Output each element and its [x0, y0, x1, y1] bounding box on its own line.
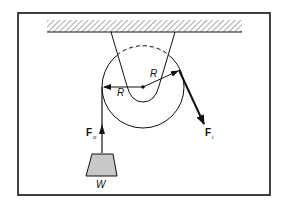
- radius-arrow-right: [143, 71, 178, 87]
- weight-label: W: [96, 179, 107, 190]
- svg-text:F: F: [86, 127, 92, 138]
- force-out-arrowhead: [99, 124, 105, 134]
- ceiling: [47, 20, 242, 32]
- pulley-diagram: R R F o F i W: [0, 0, 284, 208]
- force-out-label: F o: [86, 127, 97, 140]
- radius-label-left: R: [117, 87, 124, 98]
- radius-label-right: R: [150, 68, 157, 79]
- svg-text:o: o: [93, 134, 97, 140]
- weight-block: [86, 154, 117, 176]
- figure-frame: [18, 13, 270, 195]
- svg-text:i: i: [212, 134, 214, 140]
- force-in-label: F i: [205, 127, 214, 140]
- svg-text:F: F: [205, 127, 211, 138]
